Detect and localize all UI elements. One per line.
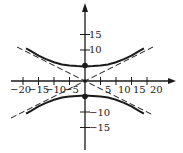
vertex-upper [82, 63, 88, 69]
x-axis-arrow-icon [168, 78, 176, 84]
y-tick-label: −15 [89, 122, 110, 133]
x-tick-label: 10 [118, 84, 131, 95]
x-tick-label: −10 [45, 84, 66, 95]
y-tick-label: −10 [89, 107, 110, 118]
y-tick-label: 10 [89, 44, 102, 55]
x-tick-label: 20 [150, 84, 163, 95]
y-tick-label: 15 [89, 29, 102, 40]
center-point [83, 79, 87, 83]
y-axis-arrow-icon [82, 3, 88, 12]
hyperbola-diagram: −20 −15 −10 −5 5 10 15 20 15 10 −10 −15 [0, 0, 183, 153]
vertex-lower [82, 94, 88, 100]
x-tick-label: 15 [133, 84, 146, 95]
x-axis: −20 −15 −10 −5 5 10 15 20 [10, 77, 176, 95]
